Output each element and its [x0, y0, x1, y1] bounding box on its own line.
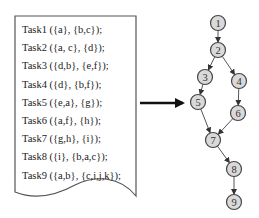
edge-2-4 [222, 56, 234, 74]
task-line: Task4 ({d}, {b,f}); [22, 79, 102, 91]
graph-node-4: 4 [232, 74, 247, 89]
task-line: Task7 ({g,h}, {i}); [22, 133, 101, 145]
node-label: 5 [195, 97, 200, 108]
task-line: Task1 ({a}, {b,c}); [22, 24, 102, 36]
graph-node-6: 6 [231, 106, 246, 121]
graph-node-2: 2 [211, 43, 226, 58]
edge-4-6 [238, 88, 239, 105]
task-line: Task9 ({a,b}, {c,i,j,k}); [22, 170, 121, 182]
node-label: 3 [202, 72, 207, 83]
node-label: 7 [210, 135, 215, 146]
edge-6-7 [218, 119, 232, 135]
task-line: Task2 ({a, c}, {d}); [22, 42, 105, 54]
node-label: 9 [231, 197, 236, 208]
node-label: 1 [215, 18, 220, 29]
task-dependency-diagram: Task1 ({a}, {b,c});Task2 ({a, c}, {d});T… [0, 0, 259, 218]
task-line: Task6 ({a,f}, {h}); [22, 115, 101, 127]
node-label: 6 [235, 108, 240, 119]
graph-node-5: 5 [191, 95, 206, 110]
graph-node-9: 9 [227, 195, 242, 210]
graph-nodes: 123456789 [191, 16, 247, 210]
edge-2-3 [208, 57, 214, 70]
node-label: 2 [215, 45, 220, 56]
edge-5-7 [201, 109, 210, 133]
task-line: Task3 ({d,b}, {e,f}); [22, 60, 109, 72]
graph-node-3: 3 [198, 70, 213, 85]
task-line: Task8 ({i}, {b,a,c}); [22, 151, 108, 163]
graph-node-7: 7 [206, 133, 221, 148]
graph-node-1: 1 [211, 16, 226, 31]
node-label: 4 [236, 76, 242, 87]
edge-7-8 [217, 146, 229, 162]
edge-3-5 [200, 84, 203, 94]
graph-node-8: 8 [227, 162, 242, 177]
task-line: Task5 ({e,a}, {g}); [22, 97, 102, 109]
node-label: 8 [231, 164, 236, 175]
